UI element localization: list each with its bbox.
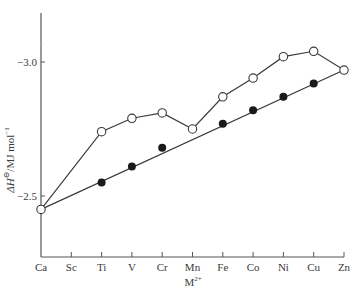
x-tick-label: Co	[247, 261, 260, 273]
open-circle-marker	[37, 205, 45, 213]
series-observed	[37, 47, 348, 214]
x-tick-label: Ti	[97, 261, 106, 273]
y-tick-label: −3.0	[17, 56, 37, 68]
x-tick-label: V	[128, 261, 136, 273]
chart: CaScTiVCrMnFeCoNiCuZn−2.5−3.0 M2+ ΔH⊖/MJ…	[0, 0, 364, 296]
open-circle-marker	[279, 52, 287, 60]
filled-circle-marker	[219, 120, 227, 128]
x-tick-label: Cu	[307, 261, 320, 273]
open-circle-marker	[158, 109, 166, 117]
x-tick-label: Ni	[278, 261, 289, 273]
filled-circle-marker	[98, 179, 106, 187]
x-tick-label: Cr	[157, 261, 168, 273]
filled-circle-marker	[158, 144, 166, 152]
filled-circle-marker	[279, 93, 287, 101]
open-circle-marker	[97, 127, 105, 135]
open-circle-marker	[310, 47, 318, 55]
open-circle-marker	[128, 114, 136, 122]
baseline-line	[41, 70, 344, 209]
open-circle-marker	[249, 74, 257, 82]
filled-circle-marker	[249, 106, 257, 114]
x-tick-label: Zn	[338, 261, 351, 273]
x-tick-label: Sc	[66, 261, 77, 273]
filled-circle-marker	[128, 163, 136, 171]
x-axis-title: M2+	[184, 275, 201, 288]
x-tick-label: Mn	[185, 261, 201, 273]
x-tick-label: Fe	[217, 261, 228, 273]
open-circle-marker	[219, 93, 227, 101]
x-tick-label: Ca	[35, 261, 47, 273]
open-circle-marker	[188, 125, 196, 133]
y-tick-label: −2.5	[17, 190, 37, 202]
open-circle-marker	[340, 66, 348, 74]
filled-circle-marker	[310, 79, 318, 87]
axes: CaScTiVCrMnFeCoNiCuZn−2.5−3.0	[17, 13, 351, 273]
y-axis-title: ΔH⊖/MJ mol−1	[2, 127, 16, 194]
